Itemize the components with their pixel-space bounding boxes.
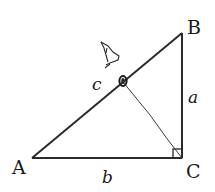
side-label-a: a [188, 87, 198, 107]
right-triangle-diagram: A B C a b c [0, 0, 215, 192]
vertex-label-A: A [11, 156, 26, 178]
side-c-hypotenuse [32, 33, 182, 158]
vertex-label-C: C [186, 160, 201, 182]
point-fill [121, 78, 125, 84]
side-label-c: c [92, 74, 102, 94]
altitude-line [123, 82, 182, 158]
side-label-b: b [102, 167, 113, 187]
eye-sketch-icon [101, 42, 119, 68]
vertex-label-B: B [187, 16, 201, 38]
